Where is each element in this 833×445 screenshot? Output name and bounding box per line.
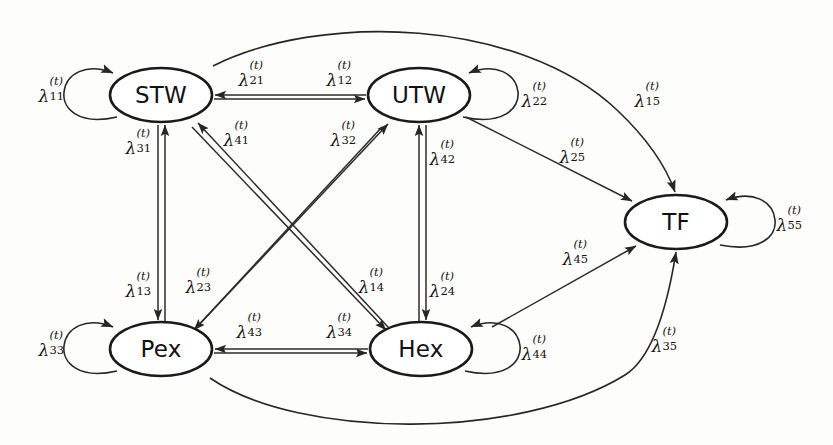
node-tf[interactable]: TF [625,195,727,249]
node-pex[interactable]: Pex [110,322,212,376]
lambda-11: λ(t)11 [39,85,66,105]
node-tf-label: TF [661,209,690,235]
lambda-22: λ(t)22 [522,90,549,110]
lambda-33: λ(t)33 [39,339,66,359]
lambda-43: λ(t)43 [237,321,264,341]
lambda-23: λ(t)23 [186,276,213,296]
lambda-31: λ(t)31 [126,137,153,157]
node-stw-label: STW [135,82,187,108]
lambda-13: λ(t)13 [126,280,153,300]
edge-utw-to-pex [194,127,382,330]
lambda-42: λ(t)42 [430,148,457,168]
lambda-24: λ(t)24 [430,280,457,300]
lambda-35: λ(t)35 [652,335,679,355]
lambda-44: λ(t)44 [522,343,549,363]
diagram-svg: STW UTW TF Pex Hex [0,0,833,445]
edge-utw-to-tf [466,117,632,201]
node-pex-label: Pex [140,336,181,362]
lambda-21: λ(t)21 [239,69,266,89]
lambda-12: λ(t)12 [327,69,354,89]
lambda-34: λ(t)34 [327,321,354,341]
lambda-55: λ(t)55 [777,214,804,234]
node-hex[interactable]: Hex [370,322,472,376]
node-stw[interactable]: STW [110,68,212,122]
lambda-41: λ(t)41 [224,129,251,149]
lambda-14: λ(t)14 [359,276,386,296]
lambda-45: λ(t)45 [563,248,590,268]
lambda-32: λ(t)32 [331,129,358,149]
diagram-canvas: STW UTW TF Pex Hex λ(t)11λ(t)21λ(t)12λ(t… [0,0,833,445]
lambda-25: λ(t)25 [560,146,587,166]
lambda-15: λ(t)15 [635,90,662,110]
node-hex-label: Hex [398,336,443,362]
node-utw[interactable]: UTW [368,68,470,122]
node-utw-label: UTW [392,82,446,108]
